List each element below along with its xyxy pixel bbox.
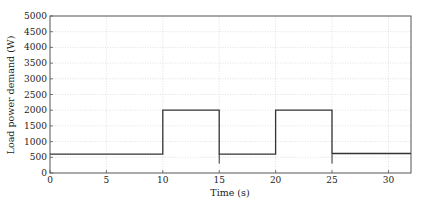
y-tick-label: 1500: [24, 121, 47, 131]
y-tick-label: 4500: [24, 27, 47, 37]
x-tick-label: 10: [157, 175, 169, 185]
y-tick-label: 2000: [24, 105, 47, 115]
x-axis-ticks: 051015202530: [47, 170, 394, 185]
y-tick-label: 3500: [24, 58, 47, 68]
y-tick-label: 2500: [24, 90, 47, 100]
x-tick-label: 30: [383, 175, 395, 185]
y-axis-label: Load power demand (W): [5, 36, 16, 155]
x-tick-label: 15: [213, 175, 225, 185]
x-axis-label: Time (s): [210, 187, 249, 198]
x-tick-label: 20: [270, 175, 282, 185]
x-tick-label: 5: [104, 175, 110, 185]
y-tick-label: 500: [30, 152, 47, 162]
grid-lines: [50, 16, 411, 173]
load-power-series: [50, 110, 411, 154]
y-tick-label: 3000: [24, 74, 47, 84]
y-axis-ticks: 0500100015002000250030003500400045005000: [24, 11, 53, 178]
load-power-chart: 051015202530 050010001500200025003000350…: [0, 0, 428, 205]
y-tick-label: 1000: [24, 137, 47, 147]
y-tick-label: 4000: [24, 42, 47, 52]
y-tick-label: 5000: [24, 11, 47, 21]
y-tick-label: 0: [41, 168, 47, 178]
x-tick-label: 0: [47, 175, 53, 185]
x-tick-label: 25: [326, 175, 338, 185]
